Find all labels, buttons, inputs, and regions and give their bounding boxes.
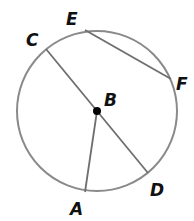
label-f: F bbox=[176, 74, 188, 94]
label-a: A bbox=[68, 199, 83, 219]
center-point-b bbox=[93, 107, 101, 115]
label-e: E bbox=[66, 9, 78, 29]
radius-ba bbox=[85, 111, 97, 192]
label-b: B bbox=[104, 90, 117, 110]
circle-diagram: C E F B D A bbox=[0, 0, 194, 221]
label-c: C bbox=[26, 30, 39, 50]
label-d: D bbox=[150, 180, 164, 200]
